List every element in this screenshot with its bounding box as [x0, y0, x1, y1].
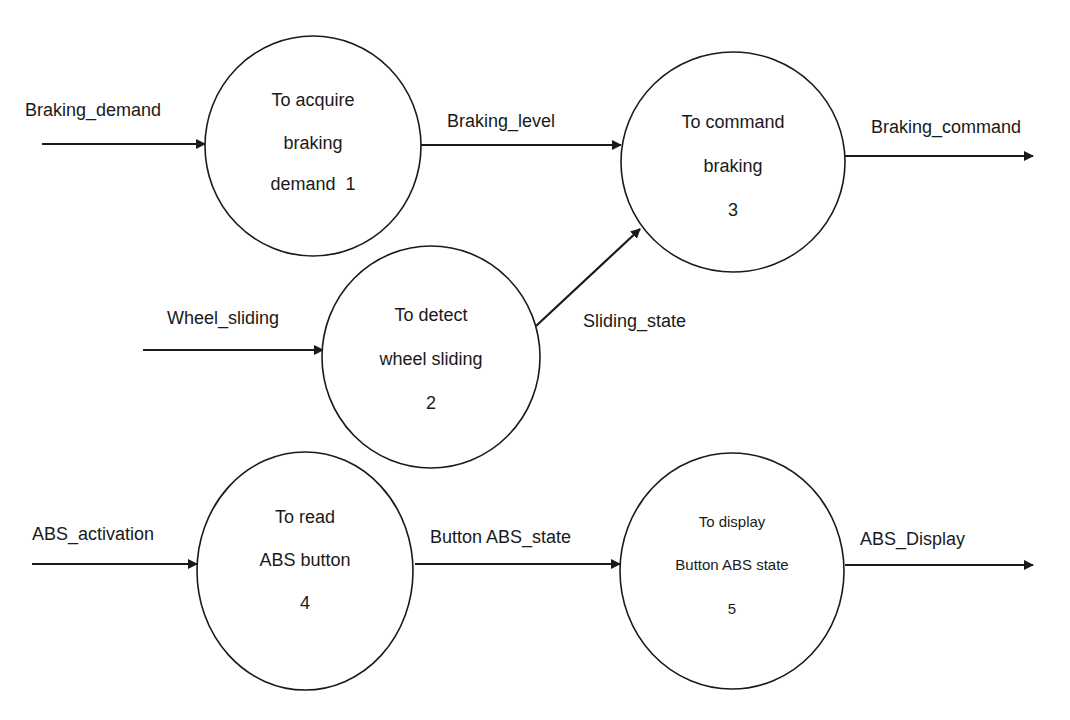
process-text: To detect: [394, 305, 467, 325]
process-text: 2: [426, 393, 436, 413]
flow-label: Braking_demand: [25, 100, 161, 121]
data-flow-diagram: Braking_demand Braking_level Braking_com…: [0, 0, 1070, 720]
flow-label: Button ABS_state: [430, 527, 571, 548]
flow-label: Braking_command: [871, 117, 1021, 138]
process-text: To display: [699, 513, 766, 530]
flow-abs-display: ABS_Display: [845, 529, 1033, 565]
process-5-display-button-abs-state: To display Button ABS state 5: [620, 453, 844, 689]
flow-wheel-sliding: Wheel_sliding: [143, 308, 323, 350]
process-text: braking: [283, 133, 342, 153]
process-text: braking: [703, 156, 762, 176]
process-text: To command: [681, 112, 784, 132]
process-text: To read: [275, 507, 335, 527]
process-2-detect-wheel-sliding: To detect wheel sliding 2: [322, 246, 540, 468]
process-bubble: [197, 452, 413, 690]
process-4-read-abs-button: To read ABS button 4: [197, 452, 413, 690]
process-text: ABS button: [259, 550, 350, 570]
flow-label: Braking_level: [447, 111, 555, 132]
process-3-command-braking: To command braking 3: [621, 52, 845, 272]
flow-label: ABS_activation: [32, 524, 154, 545]
process-text: 5: [728, 600, 736, 617]
flow-abs-activation: ABS_activation: [32, 524, 197, 564]
flow-label: Sliding_state: [583, 311, 686, 332]
flow-label: ABS_Display: [860, 529, 965, 550]
flow-braking-level: Braking_level: [421, 111, 621, 145]
flow-label: Wheel_sliding: [167, 308, 279, 329]
flow-braking-demand: Braking_demand: [25, 100, 205, 144]
flow-braking-command: Braking_command: [845, 117, 1033, 156]
process-text: 4: [300, 593, 310, 613]
process-text: Button ABS state: [675, 556, 788, 573]
process-text: demand 1: [270, 174, 355, 194]
process-text: To acquire: [271, 90, 354, 110]
process-1-acquire-braking-demand: To acquire braking demand 1: [205, 36, 421, 256]
process-text: wheel sliding: [378, 349, 482, 369]
flow-button-abs-state: Button ABS_state: [415, 527, 620, 564]
process-text: 3: [728, 200, 738, 220]
